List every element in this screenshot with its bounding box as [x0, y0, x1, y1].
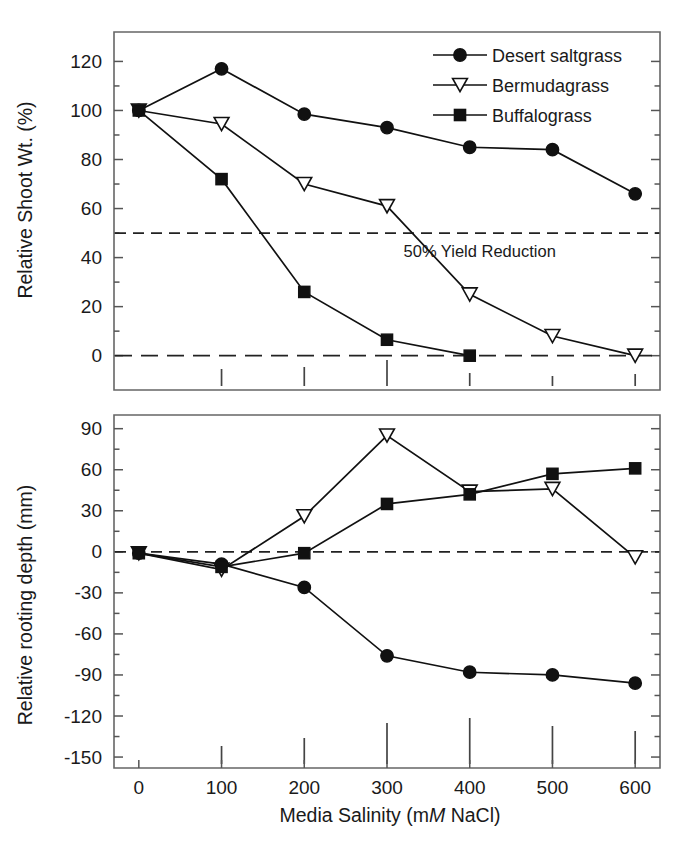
data-point-square: [381, 334, 392, 345]
bottom-panel-x-tick-labels: 0100200300400500600: [134, 777, 652, 798]
y-tick-label: 0: [91, 541, 102, 562]
series-polyline: [139, 553, 635, 683]
data-point-circle: [546, 669, 558, 681]
data-point-circle: [381, 121, 393, 133]
x-axis-title: Media Salinity (mM NaCl): [279, 804, 500, 826]
data-point-square: [464, 489, 475, 500]
y-tick-label: 0: [91, 345, 102, 366]
data-point-circle: [381, 650, 393, 662]
x-tick-label: 600: [619, 777, 651, 798]
bottom-panel-frame: [114, 415, 660, 768]
y-tick-label: -120: [64, 706, 102, 727]
y-tick-label: 120: [70, 51, 102, 72]
data-point-square: [133, 548, 144, 559]
top-panel-y-tick-labels: 020406080100120: [70, 51, 102, 366]
x-axis-title-pre: Media Salinity (m: [279, 804, 429, 826]
series-desert-saltgrass: [133, 547, 642, 689]
x-tick-label: 100: [206, 777, 238, 798]
data-point-square: [630, 463, 641, 474]
y-tick-label: -30: [75, 582, 102, 603]
panel-border: [114, 415, 660, 768]
y-tick-label: 60: [81, 198, 102, 219]
data-point-circle: [464, 666, 476, 678]
data-point-circle: [454, 49, 466, 61]
x-tick-label: 400: [454, 777, 486, 798]
data-point-square: [299, 548, 310, 559]
two-panel-line-chart: 020406080100120 50% Yield Reduction Rela…: [0, 0, 683, 862]
series-buffalograss: [133, 463, 641, 573]
legend-item-label: Desert saltgrass: [492, 46, 622, 66]
bottom-panel-x-ticks: [139, 760, 635, 768]
data-point-square: [464, 350, 475, 361]
x-axis-title-post: NaCl): [445, 804, 500, 826]
data-point-triangle: [297, 178, 312, 191]
bottom-panel: -150-120-90-60-300306090 010020030040050…: [14, 415, 660, 798]
data-point-square: [133, 105, 144, 116]
data-point-circle: [629, 677, 641, 689]
figure-container: 020406080100120 50% Yield Reduction Rela…: [0, 0, 683, 862]
x-tick-label: 200: [288, 777, 320, 798]
data-point-circle: [546, 143, 558, 155]
y-tick-label: -90: [75, 664, 102, 685]
x-tick-label: 500: [537, 777, 569, 798]
legend-item-desert-saltgrass[interactable]: Desert saltgrass: [433, 46, 622, 66]
data-point-circle: [464, 141, 476, 153]
y-tick-label: 100: [70, 100, 102, 121]
y-tick-label: 80: [81, 149, 102, 170]
top-panel-y-axis-title: Relative Shoot Wt. (%): [14, 101, 36, 298]
x-axis-title-unit-italic: M: [429, 804, 446, 826]
data-point-square: [216, 174, 227, 185]
bottom-panel-error-bars: [222, 718, 636, 764]
data-point-circle: [215, 63, 227, 75]
data-point-square: [381, 498, 392, 509]
data-point-circle: [298, 581, 310, 593]
y-tick-label: 60: [81, 459, 102, 480]
legend-item-label: Buffalograss: [492, 106, 592, 126]
data-point-triangle: [628, 551, 643, 564]
bottom-panel-y-tick-labels: -150-120-90-60-300306090: [64, 418, 102, 767]
data-point-triangle: [462, 288, 477, 301]
y-tick-label: -60: [75, 623, 102, 644]
reference-line-label: 50% Yield Reduction: [404, 242, 556, 260]
x-tick-label: 0: [134, 777, 145, 798]
data-point-square: [216, 561, 227, 572]
data-point-square: [299, 286, 310, 297]
y-tick-label: -150: [64, 747, 102, 768]
data-point-circle: [629, 188, 641, 200]
bottom-panel-series-group: [131, 429, 642, 689]
bottom-panel-y-axis-title: Relative rooting depth (mm): [14, 485, 36, 726]
y-tick-label: 90: [81, 418, 102, 439]
legend: Desert saltgrassBermudagrassBuffalograss: [433, 46, 622, 126]
data-point-triangle: [297, 510, 312, 523]
data-point-square: [454, 109, 465, 120]
data-point-square: [547, 468, 558, 479]
data-point-triangle: [545, 330, 560, 343]
y-tick-label: 20: [81, 296, 102, 317]
data-point-circle: [298, 108, 310, 120]
y-tick-label: 30: [81, 500, 102, 521]
top-panel-error-bars: [222, 360, 636, 386]
legend-item-buffalograss[interactable]: Buffalograss: [433, 106, 592, 126]
legend-item-label: Bermudagrass: [492, 76, 609, 96]
y-tick-label: 40: [81, 247, 102, 268]
legend-item-bermudagrass[interactable]: Bermudagrass: [433, 76, 609, 96]
bottom-panel-y-ticks: [114, 429, 660, 757]
x-tick-label: 300: [371, 777, 403, 798]
